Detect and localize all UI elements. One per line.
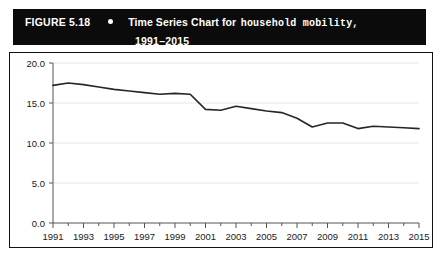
x-axis-tick-label: 1995 — [103, 231, 124, 242]
x-axis-tick-label: 2001 — [195, 231, 216, 242]
x-axis-labels-group: 1991199319951997199920012003200520072009… — [42, 231, 429, 242]
x-axis-tick-label: 2009 — [317, 231, 338, 242]
figure-title-line-2: 1991–2015 — [25, 33, 420, 46]
time-series-chart: 0.05.010.015.020.0 199119931995199719992… — [10, 53, 432, 247]
x-axis-tick-label: 2013 — [378, 231, 399, 242]
figure-container: FIGURE 5.18 Time Series Chart for househ… — [0, 0, 445, 256]
y-axis-tick-label: 20.0 — [27, 58, 46, 69]
x-axis-tick-label: 2011 — [348, 231, 368, 242]
gridlines-group — [53, 63, 419, 183]
x-axis-tick-label: 2007 — [286, 231, 307, 242]
x-axis-tick-label: 1999 — [164, 231, 185, 242]
x-axis-tick-label: 2005 — [256, 231, 277, 242]
figure-title-bar: FIGURE 5.18 Time Series Chart for househ… — [13, 9, 426, 45]
x-axis-tick-label: 1993 — [73, 231, 94, 242]
figure-title-primary: Time Series Chart for — [128, 16, 236, 28]
x-axis-ticks-group — [53, 223, 419, 228]
figure-title-variable: household mobility, — [241, 18, 359, 29]
chart-frame: 0.05.010.015.020.0 199119931995199719992… — [9, 52, 433, 248]
y-axis-tick-label: 5.0 — [32, 178, 45, 189]
figure-title-text-block: FIGURE 5.18 Time Series Chart for househ… — [25, 14, 420, 46]
figure-title-line-1: FIGURE 5.18 Time Series Chart for househ… — [25, 14, 420, 27]
bullet-dot-icon — [108, 19, 113, 24]
x-axis-tick-label: 2003 — [225, 231, 246, 242]
x-axis-tick-label: 1997 — [134, 231, 155, 242]
figure-number-label: FIGURE 5.18 — [25, 16, 90, 28]
y-axis-ticks-group — [49, 63, 53, 223]
x-axis-tick-label: 1991 — [42, 231, 63, 242]
y-axis-labels-group: 0.05.010.015.020.0 — [27, 58, 46, 229]
figure-title-year-range: 1991–2015 — [135, 35, 189, 47]
y-axis-tick-label: 0.0 — [32, 218, 45, 229]
y-axis-tick-label: 10.0 — [27, 138, 46, 149]
data-series-line — [53, 83, 419, 129]
x-axis-tick-label: 2015 — [408, 231, 429, 242]
y-axis-tick-label: 15.0 — [27, 98, 46, 109]
